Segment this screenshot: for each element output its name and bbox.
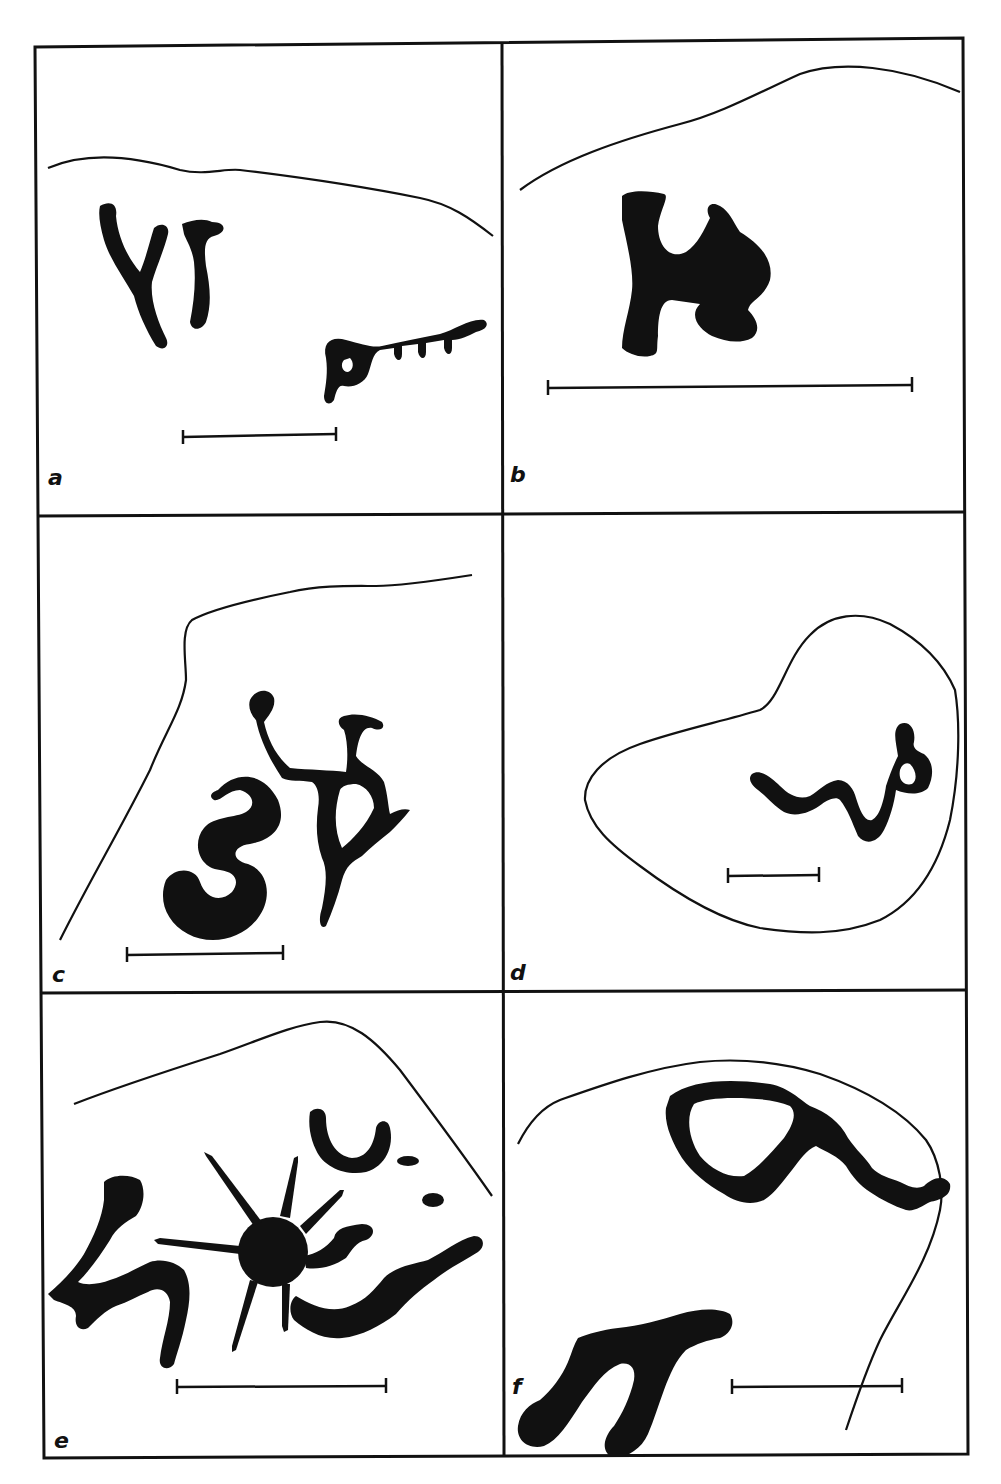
panel-label-e: e xyxy=(54,1430,69,1452)
panel-label-d: d xyxy=(510,962,526,984)
panel-e xyxy=(48,1022,492,1394)
scale-bar-f xyxy=(732,1378,902,1394)
panel-label-a: a xyxy=(48,467,63,489)
panel-c xyxy=(60,575,472,962)
glyph-b xyxy=(622,191,771,356)
glyphs-a xyxy=(99,203,487,403)
rock-outline-d xyxy=(585,616,958,933)
rock-outline-e xyxy=(74,1022,492,1196)
scale-bar-b xyxy=(548,377,912,395)
scale-bar-a xyxy=(183,427,336,444)
panel-f xyxy=(518,1061,950,1458)
scale-bar-c xyxy=(127,945,283,962)
panel-label-c: c xyxy=(52,964,65,986)
panel-d xyxy=(585,616,958,933)
panel-label-b: b xyxy=(510,464,526,486)
panel-b xyxy=(520,67,960,395)
petroglyph-plate xyxy=(0,0,1001,1484)
scale-bar-e xyxy=(177,1378,386,1394)
glyphs-e xyxy=(48,1109,483,1369)
scale-bar-d xyxy=(728,867,819,883)
glyphs-f xyxy=(518,1081,950,1457)
panel-label-f: f xyxy=(512,1376,522,1398)
glyphs-c xyxy=(163,691,410,940)
glyph-d xyxy=(750,723,932,842)
rock-outline-b xyxy=(520,67,960,190)
panel-a xyxy=(48,157,493,444)
